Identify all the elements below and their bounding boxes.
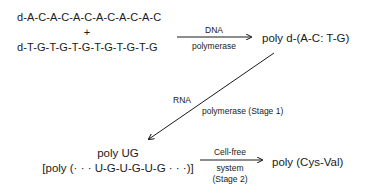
dna-strand-1: d-A-C-A-C-A-C-A-C-A-C-A-C [17,12,161,23]
dna-polymerase-label-2: polymerase [192,42,236,51]
poly-ug-product: poly UG [97,148,139,160]
cell-free-label: Cell-free [214,148,246,157]
poly-ug-sequence: [poly (· · · U-G-U-G-U-G · · ·)] [42,163,193,175]
stage-2-label: (Stage 2) [213,175,248,184]
dna-strand-2: d-T-G-T-G-T-G-T-G-T-G-T-G [17,42,158,53]
plus-sign: + [84,27,91,38]
system-label: system [217,164,244,173]
dna-polymerase-label-1: DNA [205,26,223,35]
rna-polymerase-label-2: polymerase (Stage 1) [202,107,283,116]
rna-polymerase-arrow [149,53,274,139]
poly-cys-val-product: poly (Cys-Val) [272,157,343,169]
rna-polymerase-label-1: RNA [173,96,191,105]
poly-d-ac-tg-product: poly d-(A-C: T-G) [262,33,349,45]
